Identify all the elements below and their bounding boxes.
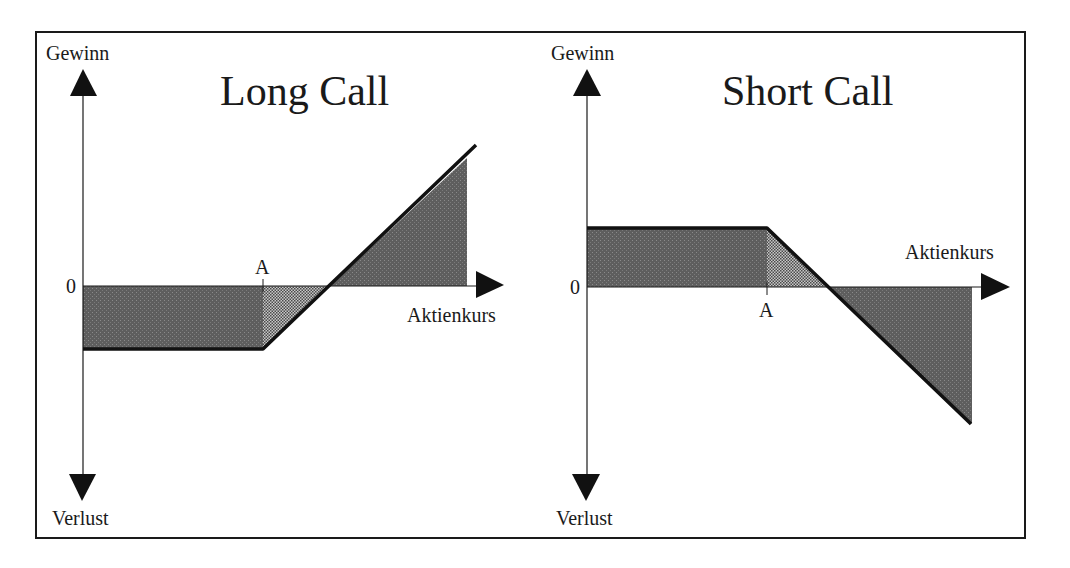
strike-label: A — [255, 256, 270, 278]
panel-title: Long Call — [220, 68, 389, 114]
strike-label: A — [759, 299, 774, 321]
loss-area — [83, 286, 263, 349]
arrow-down-icon — [69, 474, 96, 501]
option-payoff-figure: Gewinn Long Call 0 A Aktienkurs Verlust … — [0, 0, 1070, 568]
x-axis-label: Aktienkurs — [905, 241, 994, 263]
arrow-up-icon — [573, 69, 601, 96]
y-axis-bottom-label: Verlust — [52, 507, 109, 529]
y-axis-top-label: Gewinn — [551, 42, 614, 64]
panel-long-call: Gewinn Long Call 0 A Aktienkurs Verlust — [46, 42, 504, 529]
arrow-right-icon — [981, 273, 1010, 300]
panel-short-call: Gewinn Short Call 0 A Aktienkurs Verlust — [551, 42, 1010, 529]
y-axis-bottom-label: Verlust — [556, 507, 613, 529]
panel-title: Short Call — [722, 68, 894, 114]
profit-area — [587, 228, 767, 287]
zero-label: 0 — [66, 275, 76, 297]
arrow-right-icon — [476, 271, 504, 298]
zero-label: 0 — [570, 276, 580, 298]
y-axis-top-label: Gewinn — [46, 42, 109, 64]
arrow-down-icon — [572, 474, 600, 501]
x-axis-label: Aktienkurs — [407, 304, 496, 326]
arrow-up-icon — [70, 69, 97, 96]
